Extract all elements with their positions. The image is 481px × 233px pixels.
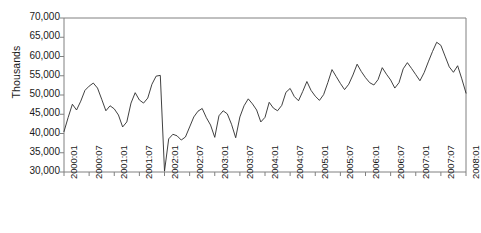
x-axis-tick-labels: 2000:012000:072001:012001:072002:012002:… [0, 0, 481, 233]
x-tick-label: 2001:01 [118, 145, 129, 179]
x-tick-label: 2000:01 [68, 145, 79, 179]
x-tick-label: 2007:01 [420, 145, 431, 179]
x-tick-label: 2001:07 [143, 145, 154, 179]
x-tick-label: 2005:07 [344, 145, 355, 179]
x-tick-label: 2006:01 [370, 145, 381, 179]
x-tick-label: 2002:01 [169, 145, 180, 179]
x-tick-label: 2004:07 [294, 145, 305, 179]
x-tick-label: 2004:01 [269, 145, 280, 179]
x-tick-label: 2002:07 [194, 145, 205, 179]
x-tick-label: 2003:07 [244, 145, 255, 179]
x-tick-label: 2005:01 [319, 145, 330, 179]
line-chart: Thousands 30,00035,00040,00045,00050,000… [0, 0, 481, 233]
x-tick-label: 2006:07 [395, 145, 406, 179]
x-tick-label: 2008:01 [470, 145, 481, 179]
x-tick-label: 2007:07 [445, 145, 456, 179]
x-tick-label: 2000:07 [93, 145, 104, 179]
x-tick-label: 2003:01 [219, 145, 230, 179]
